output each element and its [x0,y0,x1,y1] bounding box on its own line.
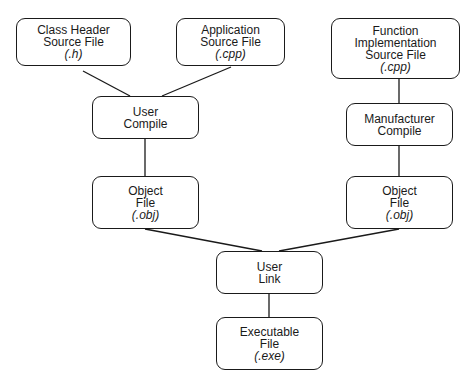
object-file-left-node: Object File (.obj) [92,176,199,229]
edge-classheader-usercompile [83,71,130,96]
file-extension: (.cpp) [215,48,246,60]
object-file-right-node: Object File (.obj) [346,176,453,229]
node-label: Link [258,273,280,285]
edge-objectleft-userlink [145,229,262,251]
application-source-node: Application Source File (.cpp) [176,18,285,66]
edge-objectright-userlink [279,229,399,251]
file-extension: (.cpp) [380,61,411,73]
node-label: Manufacturer [364,113,435,125]
node-label: Source File [365,49,426,61]
node-label: Object [128,185,163,197]
function-implementation-source-node: Function Implementation Source File (.cp… [331,18,460,79]
node-label: Executable [240,326,299,338]
user-link-node: User Link [216,251,323,294]
executable-file-node: Executable File (.exe) [216,317,323,370]
node-label: User [257,261,282,273]
file-extension: (.obj) [386,209,413,221]
user-compile-node: User Compile [92,96,199,139]
file-extension: (.h) [65,48,83,60]
file-extension: (.obj) [132,209,159,221]
node-label: User [133,106,158,118]
class-header-source-node: Class Header Source File (.h) [16,18,131,66]
node-label: Compile [377,125,421,137]
edge-application-usercompile [162,67,231,96]
node-label: Implementation [354,37,436,49]
node-label: File [390,197,409,209]
node-label: File [260,338,279,350]
node-label: File [136,197,155,209]
manufacturer-compile-node: Manufacturer Compile [346,103,453,146]
node-label: Function [372,25,418,37]
node-label: Compile [123,118,167,130]
file-extension: (.exe) [254,350,285,362]
node-label: Object [382,185,417,197]
